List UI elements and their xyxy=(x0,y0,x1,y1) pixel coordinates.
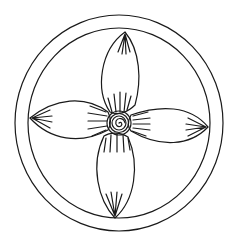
petal-bottom xyxy=(97,133,135,218)
flower-illustration: four-petal flower inside double circle xyxy=(0,0,236,247)
flower-drawing xyxy=(0,0,236,247)
petal-right xyxy=(128,109,208,143)
petal-top xyxy=(102,32,139,114)
petal-left xyxy=(30,101,110,139)
